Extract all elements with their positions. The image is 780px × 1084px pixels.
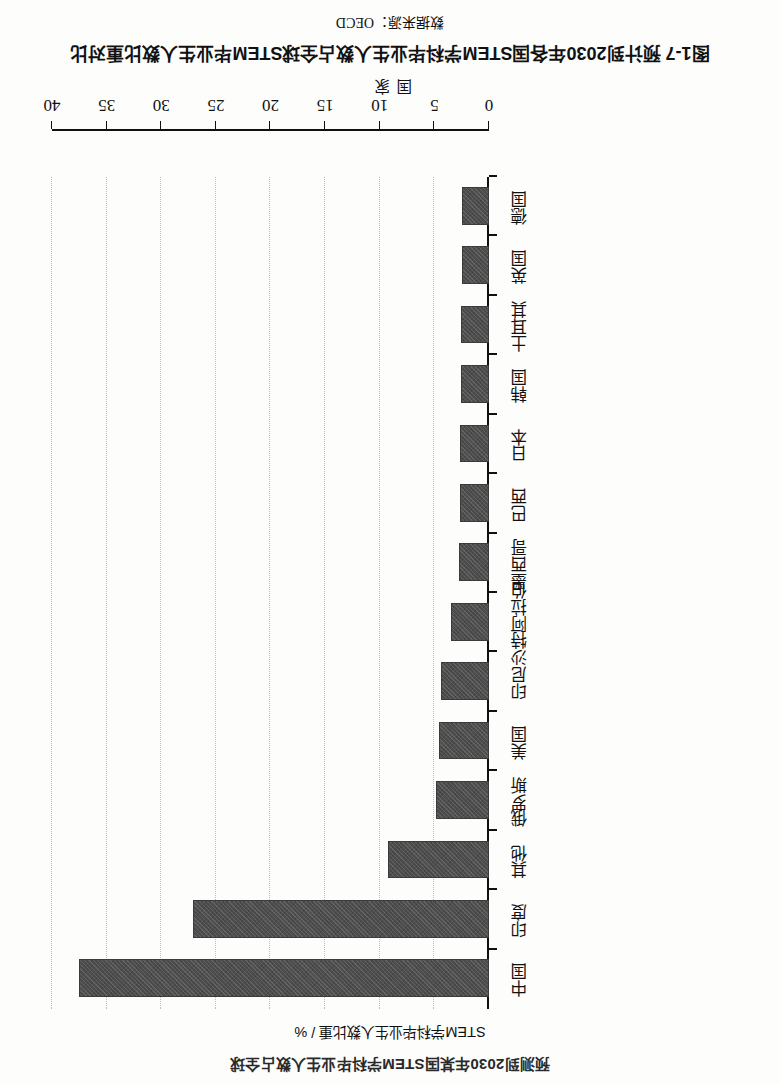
category-axis-label: 日本 xyxy=(503,428,533,462)
bar xyxy=(459,543,489,581)
category-axis-label: 中国 xyxy=(503,963,533,997)
gridline xyxy=(324,177,325,1009)
bar-chart-plot: 0510152025303540中国印度其他俄罗斯美国印尼沙特阿拉伯墨西哥巴西日… xyxy=(52,129,489,1009)
gridline xyxy=(270,177,271,1009)
bar xyxy=(388,841,489,879)
category-axis-label: 俄罗斯 xyxy=(503,776,533,826)
category-axis-tick xyxy=(489,829,497,831)
rotated-figure-container: 预测到2030年某国STEM学科毕业生人数占全球 STEM学科毕业生人数比重 /… xyxy=(0,0,780,1084)
y-axis-title: STEM学科毕业生人数比重 / % xyxy=(0,1023,780,1044)
bar xyxy=(460,425,489,463)
category-axis-label: 印度 xyxy=(503,903,533,937)
plot-area xyxy=(52,177,489,1009)
figure-source: 数据来源：OECD xyxy=(0,14,780,34)
value-axis-tick xyxy=(324,121,325,129)
category-axis-tick xyxy=(489,948,497,950)
gridline xyxy=(160,177,161,1009)
value-axis-tick xyxy=(488,121,489,129)
category-axis-label: 墨西哥 xyxy=(503,538,533,588)
gridline xyxy=(106,177,107,1009)
category-axis-tick xyxy=(489,413,497,415)
value-axis-tick xyxy=(160,121,161,129)
bar xyxy=(461,306,489,344)
figure-caption: 图1-7 预计到2030年各国STEM学科毕业生人数占全球STEM毕业生人数比重… xyxy=(0,42,780,68)
bar xyxy=(451,603,489,641)
bar xyxy=(462,187,489,225)
gridline xyxy=(379,177,380,1009)
value-axis-tick xyxy=(270,121,271,129)
value-axis-tick xyxy=(51,121,52,129)
category-axis-label: 美国 xyxy=(503,725,533,759)
category-axis-tick xyxy=(489,710,497,712)
value-axis-tick xyxy=(379,121,380,129)
x-axis-title: 国家 xyxy=(0,77,780,99)
gridline xyxy=(433,177,434,1009)
category-axis-label: 巴西 xyxy=(503,487,533,521)
value-axis-tick xyxy=(215,121,216,129)
gridline xyxy=(51,177,52,1009)
value-axis-tick xyxy=(433,121,434,129)
category-axis-tick xyxy=(489,591,497,593)
category-axis-label: 土耳其 xyxy=(503,301,533,351)
gridline xyxy=(215,177,216,1009)
bar xyxy=(462,246,489,284)
category-axis-tick xyxy=(489,472,497,474)
category-axis-label: 其他 xyxy=(503,844,533,878)
scanned-page: 预测到2030年某国STEM学科毕业生人数占全球 STEM学科毕业生人数比重 /… xyxy=(0,0,780,1084)
bar xyxy=(460,484,489,522)
category-axis-label: 德国 xyxy=(503,190,533,224)
category-axis-label: 印尼 xyxy=(503,666,533,700)
category-axis-tick xyxy=(489,353,497,355)
category-axis-tick xyxy=(489,294,497,296)
category-axis-tick xyxy=(489,769,497,771)
bar xyxy=(461,365,489,403)
category-axis-tick xyxy=(489,888,497,890)
bar xyxy=(436,781,489,819)
category-axis-tick xyxy=(489,650,497,652)
bar xyxy=(439,722,489,760)
category-axis-tick xyxy=(489,175,497,177)
bar xyxy=(441,662,489,700)
bar xyxy=(193,900,489,938)
category-axis-label: 韩国 xyxy=(503,368,533,402)
value-axis-tick xyxy=(106,121,107,129)
value-axis-line xyxy=(52,129,489,131)
category-axis-label: 沙特阿拉伯 xyxy=(503,581,533,665)
category-axis-tick xyxy=(489,234,497,236)
partial-running-text: 预测到2030年某国STEM学科毕业生人数占全球 xyxy=(0,1055,780,1076)
category-axis-label: 英国 xyxy=(503,250,533,284)
figure: 预测到2030年某国STEM学科毕业生人数占全球 STEM学科毕业生人数比重 /… xyxy=(0,0,780,1084)
category-axis-line xyxy=(487,177,489,1009)
category-axis-tick xyxy=(489,532,497,534)
bar xyxy=(80,959,490,997)
